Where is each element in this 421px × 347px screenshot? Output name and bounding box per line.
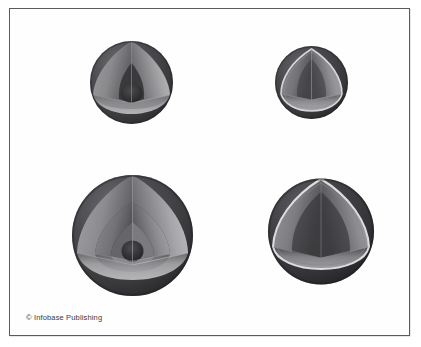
figure-container: © Infobase Publishing	[0, 0, 421, 347]
planet-top-left	[81, 33, 182, 134]
diagram-canvas: © Infobase Publishing	[10, 9, 409, 335]
planet-bottom-right	[259, 170, 383, 294]
planet-top-right	[275, 45, 353, 123]
copyright-credit: © Infobase Publishing	[26, 313, 102, 322]
figure-frame: © Infobase Publishing	[9, 8, 410, 336]
planet-bottom-left	[63, 166, 202, 305]
